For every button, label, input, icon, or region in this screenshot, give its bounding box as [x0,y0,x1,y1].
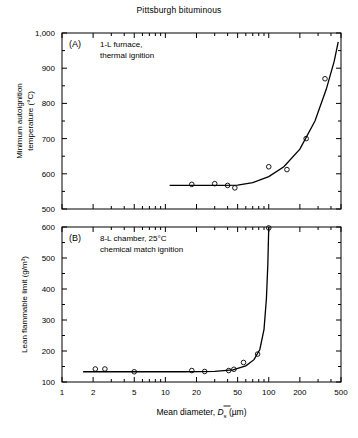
panel-annotation-line1: 1-L furnace, [100,40,142,49]
figure-container: Pittsburgh bituminous 5006007008009001,0… [0,0,358,438]
x-tick-label: 5 [132,388,137,397]
x-axis-title-prefix: Mean diameter, [156,407,217,417]
data-point [241,360,246,365]
fit-curve [170,42,339,186]
y-tick-label: 700 [42,135,56,144]
y-tick-label: 100 [42,378,56,387]
data-point [266,164,271,169]
y-tick-label: 900 [42,64,56,73]
y-tick-label: 800 [42,99,56,108]
panel-b-ylabel: Lean flammable limit (g/m³) [20,256,29,353]
panel-annotation-line1: 8-L chamber, 25°C [100,234,167,243]
y-tick-label: 500 [42,205,56,214]
shared-x-axis: Mean diameter, Ds (µm) [156,406,246,419]
panel-a: 5006007008009001,000(A)1-L furnace,therm… [15,29,341,214]
x-tick-label: 100 [262,388,276,397]
data-point [93,367,98,372]
panel-a-ylabel-line2: temperature (°C) [26,91,35,151]
panel-b: 100200300400500600125102050100200500(B)8… [20,223,348,397]
y-tick-label: 600 [42,223,56,232]
y-tick-label: 600 [42,170,56,179]
y-tick-label: 400 [42,285,56,294]
x-axis-title: Mean diameter, Ds (µm) [156,407,246,419]
panel-a-ylabel-line1: Minimum autoignition [15,83,24,159]
y-tick-label: 300 [42,316,56,325]
panel-label: (A) [69,39,81,49]
panel-label: (B) [69,233,81,243]
panel-annotation-line2: thermal ignition [100,51,154,60]
x-tick-label: 200 [293,388,307,397]
y-tick-label: 1,000 [35,29,56,38]
x-tick-label: 2 [91,388,96,397]
x-tick-label: 500 [334,388,348,397]
figure-svg: 5006007008009001,000(A)1-L furnace,therm… [0,0,358,438]
data-point [285,167,290,172]
x-tick-label: 1 [60,388,65,397]
panel-annotation-line2: chemical match ignition [100,245,183,254]
data-point [103,367,108,372]
data-point [233,186,238,191]
y-tick-label: 500 [42,254,56,263]
y-tick-label: 200 [42,347,56,356]
data-point [323,76,328,81]
x-axis-title-units: (µm) [227,407,247,417]
x-tick-label: 50 [233,388,242,397]
x-tick-label: 20 [192,388,201,397]
x-tick-label: 10 [161,388,170,397]
